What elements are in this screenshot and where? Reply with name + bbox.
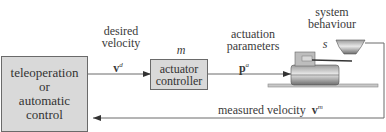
actuator-controller-block: actuator controller (150, 59, 208, 90)
block-line-1: teleoperation (11, 66, 79, 80)
desired-velocity-symbol: vd (108, 59, 128, 74)
block-line-3: automatic (19, 94, 70, 108)
actuation-parameters-symbol: pa (234, 59, 254, 74)
teleoperation-block: teleoperation or automatic control (1, 56, 88, 132)
desired-velocity-label: desired velocity (96, 25, 146, 49)
actuator-symbol-m: m (175, 44, 187, 56)
actuator-line-1: actuator (160, 63, 199, 75)
system-symbol-s: s (320, 38, 330, 50)
system-behaviour-label: system behaviour (302, 6, 362, 30)
block-line-4: control (26, 108, 63, 122)
actuation-parameters-label: actuation parameters (218, 28, 288, 52)
block-line-2: or (39, 80, 50, 94)
measured-velocity-label: measured velocity vm (218, 101, 358, 116)
actuator-line-2: controller (156, 75, 203, 87)
